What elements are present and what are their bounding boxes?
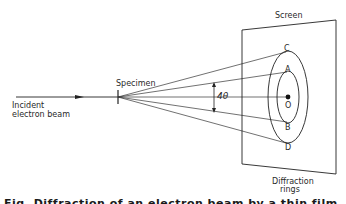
point-a-label: A xyxy=(285,65,290,74)
diffraction-diagram xyxy=(0,0,346,204)
incident-beam-label-line1: Incident xyxy=(12,101,44,110)
angle-label: 4θ xyxy=(217,92,228,101)
center-spot xyxy=(286,95,291,100)
diffraction-rings-label-line2: rings xyxy=(280,185,300,194)
point-o-label: O xyxy=(285,101,291,110)
ray-to-b xyxy=(118,97,287,122)
incident-beam-label-line2: electron beam xyxy=(12,110,70,119)
beam-arrow-icon xyxy=(75,95,84,99)
point-d-label: D xyxy=(285,143,291,152)
ray-to-c xyxy=(118,52,286,97)
point-c-label: C xyxy=(284,44,290,53)
screen-label: Screen xyxy=(275,11,303,20)
angle-arrow-down-icon xyxy=(212,108,216,113)
point-b-label: B xyxy=(285,123,291,132)
specimen-label: Specimen xyxy=(116,79,155,88)
ray-to-d xyxy=(118,97,286,143)
figure-caption: Fig. Diffraction of an electron beam by … xyxy=(4,197,338,204)
